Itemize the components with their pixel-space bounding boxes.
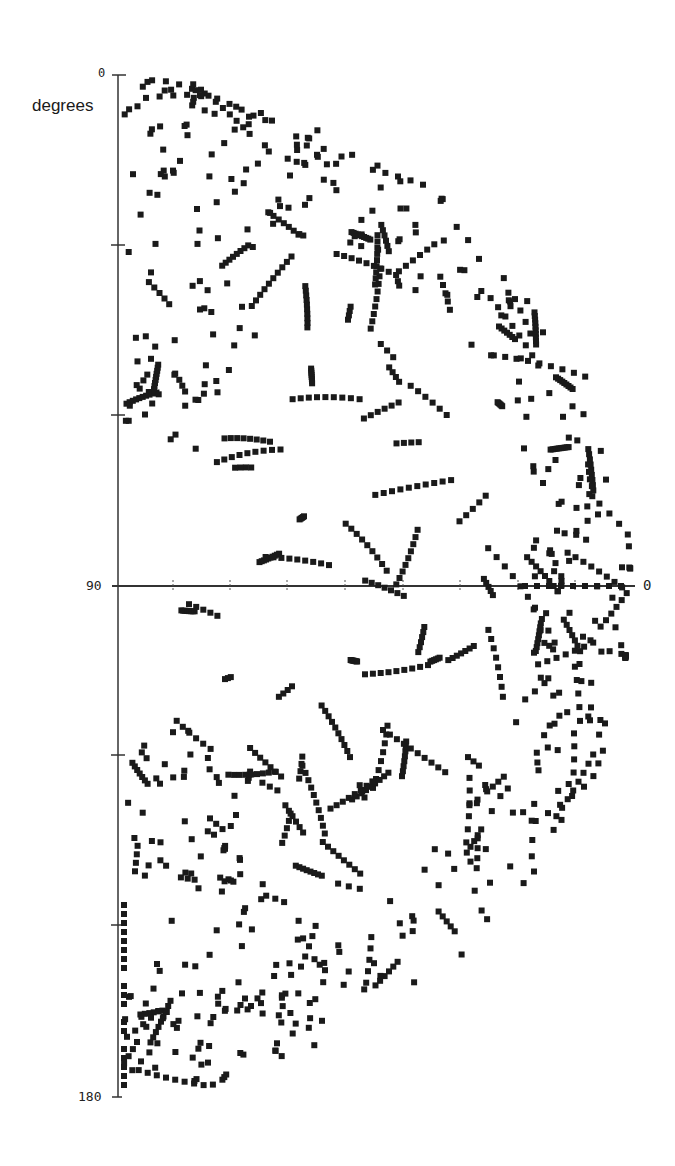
scatter-points xyxy=(121,77,633,1088)
angle-axis-title: degrees xyxy=(32,96,93,116)
angle-label-180: 180 xyxy=(78,1089,101,1104)
angle-label-90: 90 xyxy=(86,578,102,593)
radial-end-label: 0 xyxy=(643,577,651,593)
angle-label-0: 0 xyxy=(98,66,105,80)
